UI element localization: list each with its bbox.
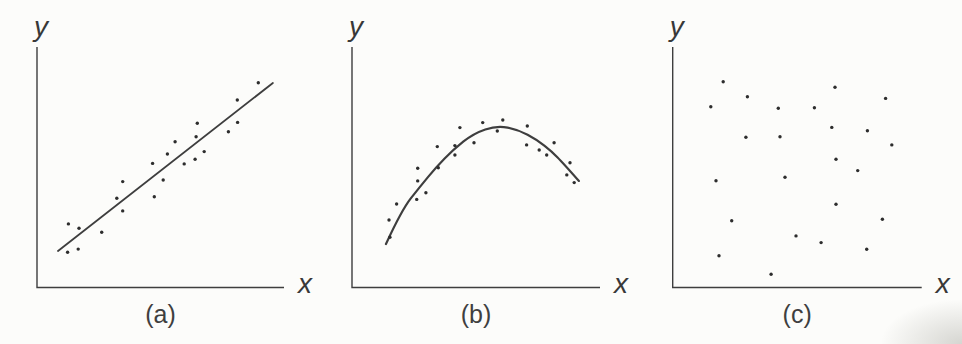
data-point bbox=[203, 150, 206, 153]
data-point bbox=[436, 145, 439, 148]
data-point bbox=[881, 218, 884, 221]
data-point bbox=[526, 124, 529, 127]
data-point bbox=[884, 97, 887, 100]
data-point bbox=[100, 231, 103, 234]
data-point bbox=[714, 179, 717, 182]
data-point bbox=[856, 169, 859, 172]
data-point bbox=[162, 178, 165, 181]
data-point bbox=[121, 209, 124, 212]
data-point bbox=[453, 153, 456, 156]
data-point bbox=[552, 141, 555, 144]
data-point bbox=[545, 153, 548, 156]
data-point bbox=[501, 118, 504, 121]
data-point bbox=[813, 106, 816, 109]
y-axis-label-a: y bbox=[34, 13, 48, 41]
fit-line-a bbox=[58, 83, 273, 251]
data-point bbox=[573, 181, 576, 184]
x-axis-label-a: x bbox=[298, 270, 312, 298]
data-point bbox=[481, 121, 484, 124]
data-point bbox=[538, 148, 541, 151]
data-point bbox=[830, 126, 833, 129]
data-point bbox=[783, 176, 786, 179]
data-point bbox=[193, 158, 196, 161]
data-point bbox=[424, 191, 427, 194]
data-point bbox=[227, 130, 230, 133]
axes-a bbox=[37, 47, 284, 288]
axes-b bbox=[352, 47, 600, 288]
data-point bbox=[166, 152, 169, 155]
data-point bbox=[453, 144, 456, 147]
scatter-plots-svg bbox=[0, 0, 962, 344]
data-point bbox=[173, 140, 176, 143]
data-point bbox=[890, 143, 893, 146]
data-point bbox=[415, 198, 418, 201]
panel-caption-b: (b) bbox=[461, 302, 492, 327]
data-point bbox=[778, 135, 781, 138]
data-point bbox=[121, 180, 124, 183]
data-point bbox=[834, 203, 837, 206]
data-point bbox=[565, 173, 568, 176]
data-point bbox=[525, 143, 528, 146]
data-point bbox=[865, 248, 868, 251]
data-point bbox=[437, 166, 440, 169]
data-point bbox=[709, 105, 712, 108]
data-point bbox=[777, 107, 780, 110]
data-point bbox=[388, 236, 391, 239]
data-point bbox=[769, 273, 772, 276]
data-point bbox=[834, 158, 837, 161]
y-axis-label-b: y bbox=[349, 13, 363, 41]
data-point bbox=[416, 179, 419, 182]
y-axis-label-c: y bbox=[670, 13, 684, 41]
data-point bbox=[416, 167, 419, 170]
data-point bbox=[77, 247, 80, 250]
data-point bbox=[77, 227, 80, 230]
panel-caption-c: (c) bbox=[783, 302, 812, 327]
panel-caption-a: (a) bbox=[145, 302, 176, 327]
data-point bbox=[66, 251, 69, 254]
data-point bbox=[194, 135, 197, 138]
data-point bbox=[151, 162, 154, 165]
x-axis-label-c: x bbox=[936, 270, 950, 298]
data-point bbox=[387, 218, 390, 221]
data-point bbox=[746, 95, 749, 98]
data-point bbox=[496, 129, 499, 132]
data-point bbox=[257, 81, 260, 84]
figure-canvas: y x (a) y x (b) y x (c) bbox=[0, 0, 962, 344]
data-point bbox=[196, 122, 199, 125]
data-point bbox=[866, 129, 869, 132]
data-point bbox=[236, 121, 239, 124]
data-point bbox=[472, 141, 475, 144]
x-axis-label-b: x bbox=[614, 270, 628, 298]
fit-curve-b bbox=[386, 127, 579, 244]
data-point bbox=[819, 241, 822, 244]
data-point bbox=[236, 98, 239, 101]
data-point bbox=[730, 219, 733, 222]
data-point bbox=[183, 162, 186, 165]
data-point bbox=[833, 86, 836, 89]
data-point bbox=[153, 195, 156, 198]
data-point bbox=[115, 197, 118, 200]
data-point bbox=[67, 222, 70, 225]
data-point bbox=[744, 136, 747, 139]
data-point bbox=[794, 234, 797, 237]
data-point bbox=[458, 126, 461, 129]
data-point bbox=[568, 161, 571, 164]
data-point bbox=[395, 202, 398, 205]
axes-c bbox=[673, 47, 922, 288]
data-point bbox=[722, 80, 725, 83]
data-point bbox=[717, 254, 720, 257]
